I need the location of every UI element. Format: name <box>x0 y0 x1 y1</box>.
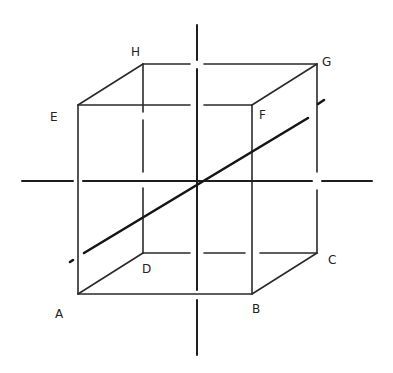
label-F: F <box>259 108 266 122</box>
edge-FG <box>252 64 317 105</box>
diagonal-axis-stub-right <box>318 100 324 104</box>
edge-BC <box>252 253 317 294</box>
vertex-labels: A B C D E F G H <box>50 45 336 321</box>
edge-EH <box>78 64 143 105</box>
label-C: C <box>328 253 336 267</box>
cube-diagram: A B C D E F G H <box>0 0 393 373</box>
label-D: D <box>142 262 151 276</box>
label-E: E <box>50 110 58 124</box>
label-B: B <box>252 302 260 316</box>
diagonal-axis-stub-left <box>70 260 73 262</box>
edge-AD <box>78 253 143 294</box>
label-A: A <box>55 307 64 321</box>
label-H: H <box>131 45 140 59</box>
label-G: G <box>322 55 331 69</box>
